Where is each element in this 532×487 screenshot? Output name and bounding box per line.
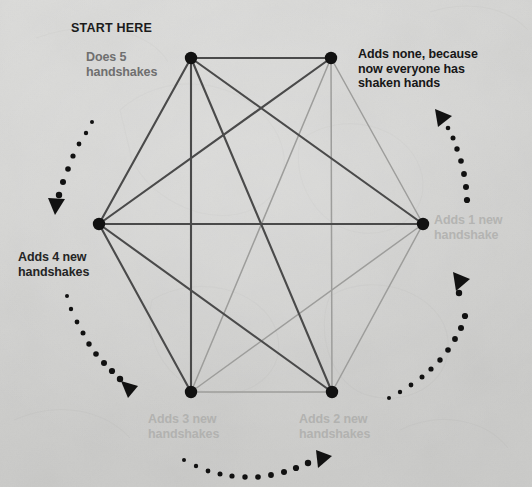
edge-p1-p2: [99, 58, 191, 224]
arrow-1-head: [48, 198, 65, 215]
arrow-3: [182, 450, 332, 480]
label-adds-none: Adds none, because now everyone has shak…: [358, 47, 478, 91]
arrow-2-head: [121, 381, 138, 398]
diagram-canvas: START HERE Does 5 handshakes Adds none, …: [0, 0, 532, 487]
label-adds-3-handshakes: Adds 3 new handshakes: [148, 412, 219, 441]
vertex-p2[interactable]: [93, 218, 105, 230]
label-adds-1-handshake: Adds 1 new handshake: [434, 213, 502, 242]
arrow-3-head: [316, 450, 332, 468]
label-start-here: START HERE: [71, 21, 152, 36]
vertex-p1[interactable]: [185, 52, 197, 64]
arrow-5: [435, 109, 470, 203]
vertex-p4[interactable]: [326, 386, 338, 398]
arrow-1: [48, 120, 94, 215]
arrow-group: [48, 109, 470, 480]
vertex-p5[interactable]: [417, 218, 429, 230]
label-adds-2-handshakes: Adds 2 new handshakes: [299, 412, 370, 441]
arrow-2: [65, 294, 138, 398]
edge-group-dark: [99, 58, 423, 392]
edge-p4-p5: [332, 224, 423, 392]
arrow-4-head: [453, 272, 470, 291]
vertex-p6[interactable]: [325, 52, 337, 64]
label-adds-4-handshakes: Adds 4 new handshakes: [18, 250, 89, 279]
arrow-5-head: [435, 109, 452, 127]
label-does-5-handshakes: Does 5 handshakes: [86, 50, 157, 79]
arrow-4: [387, 272, 470, 400]
edge-p2-p3: [99, 224, 191, 392]
vertex-p3[interactable]: [185, 386, 197, 398]
